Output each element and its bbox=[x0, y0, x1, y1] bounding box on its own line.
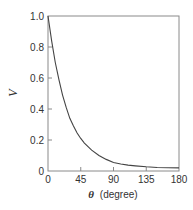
plot-frame bbox=[48, 16, 179, 171]
y-axis-label: V bbox=[6, 88, 20, 97]
y-tick-label: 1.0 bbox=[30, 11, 44, 22]
y-tick-label: 0 bbox=[38, 166, 44, 177]
x-tick-label: 180 bbox=[171, 174, 188, 185]
x-axis-label-unit: (degree) bbox=[100, 189, 138, 200]
y-tick-label: 0.8 bbox=[30, 42, 44, 53]
y-tick-label: 0.4 bbox=[30, 104, 44, 115]
x-axis-label: θ (degree) bbox=[88, 188, 137, 200]
y-tick-label: 0.2 bbox=[30, 135, 44, 146]
chart-figure: 00.20.40.60.81.0 04590135180 V θ (degree… bbox=[0, 0, 193, 210]
plot-border bbox=[48, 16, 179, 171]
x-tick-label: 135 bbox=[138, 174, 155, 185]
x-tick-label: 90 bbox=[108, 174, 120, 185]
x-axis-label-symbol: θ bbox=[88, 188, 94, 200]
y-axis-ticks: 00.20.40.60.81.0 bbox=[30, 11, 52, 177]
x-tick-label: 0 bbox=[45, 174, 51, 185]
y-tick-label: 0.6 bbox=[30, 73, 44, 84]
x-tick-label: 45 bbox=[75, 174, 87, 185]
x-axis-ticks: 04590135180 bbox=[45, 167, 188, 185]
data-series-line bbox=[48, 16, 179, 168]
